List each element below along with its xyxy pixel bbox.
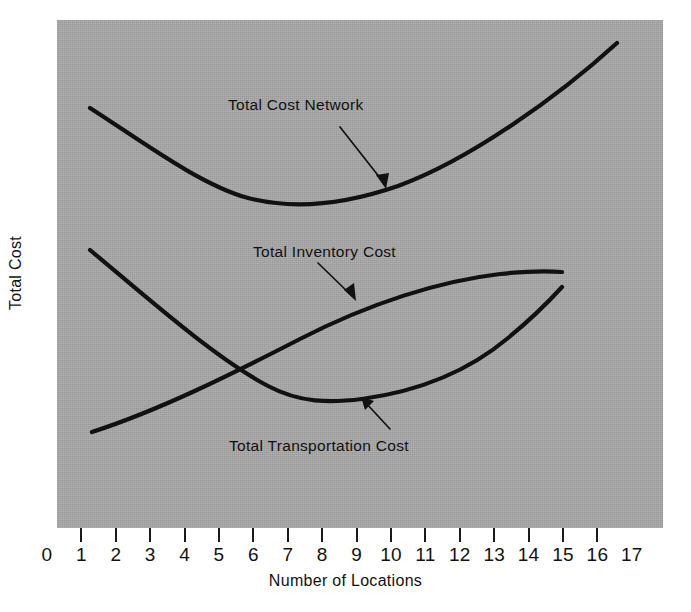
x-axis-tick-label: 6 [248,544,259,566]
leader-arrow-total-transportation-cost [361,397,390,429]
x-axis-tick-label: 0 [42,544,53,566]
x-axis-tick [528,528,530,542]
x-axis-tick-label: 17 [621,544,643,566]
x-axis-tick [149,528,151,542]
x-axis-tick-label: 10 [380,544,402,566]
x-axis-tick-label: 7 [282,544,293,566]
total-inventory-cost-label: Total Inventory Cost [253,243,396,261]
x-axis-ticks [0,528,691,542]
x-axis-tick-label: 11 [415,544,435,566]
x-axis-tick-label: 8 [317,544,328,566]
x-axis-tick [218,528,220,542]
chart-figure: Total Cost Network Total Inventory Cost … [0,0,691,612]
x-axis-tick-label: 5 [214,544,225,566]
leader-arrow-total-inventory-cost [318,263,356,301]
x-axis-tick-label: 3 [145,544,156,566]
x-axis-tick [356,528,358,542]
x-axis-tick-label: 4 [179,544,190,566]
x-axis-tick [115,528,117,542]
x-axis-tick [596,528,598,542]
x-axis-tick [80,528,82,542]
total-transportation-cost-label: Total Transportation Cost [229,437,409,455]
x-axis-tick-label: 16 [587,544,609,566]
x-axis-tick [287,528,289,542]
total-cost-network-label: Total Cost Network [228,96,363,114]
x-axis-tick [252,528,254,542]
x-axis-tick [321,528,323,542]
curve-total-cost-network [90,43,617,204]
x-axis-tick [390,528,392,542]
x-axis-tick-label: 12 [449,544,471,566]
x-axis-tick-label: 13 [483,544,505,566]
x-axis-tick [562,528,564,542]
x-axis-tick [493,528,495,542]
x-axis-tick [184,528,186,542]
x-axis-tick-label: 1 [76,544,87,566]
x-axis-tick [459,528,461,542]
x-axis-tick-label: 9 [351,544,362,566]
x-axis-tick-labels: 01234567891011121314151617 [0,544,691,568]
x-axis-tick-label: 15 [552,544,574,566]
x-axis-tick [424,528,426,542]
x-axis-tick-label: 2 [110,544,121,566]
chart-curves-layer [0,0,691,612]
y-axis-title: Total Cost [7,213,25,333]
leader-arrow-total-cost-network [340,127,389,189]
x-axis-tick-label: 14 [518,544,540,566]
x-axis-title: Number of Locations [0,572,691,590]
